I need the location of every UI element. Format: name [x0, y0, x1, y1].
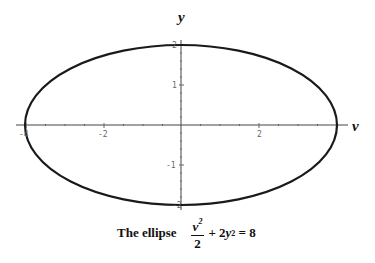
x-axis-label: v — [352, 118, 359, 134]
y-tick-m1: -1 — [166, 161, 176, 170]
caption-den: 2 — [194, 236, 201, 251]
caption-num-exp: 2 — [198, 217, 202, 226]
caption-text: The ellipse — [117, 225, 177, 241]
caption-equals: = 8 — [235, 225, 255, 241]
y-tick-p2: 2 — [172, 41, 177, 50]
x-tick-p2: 2 — [257, 130, 262, 139]
x-tick-m2: -2 — [98, 130, 108, 139]
y-tick-p1: 1 — [172, 81, 177, 90]
y-tick-m2: -2 — [172, 201, 182, 210]
x-tick-m4: -4 — [19, 130, 29, 139]
caption-fraction: v2 2 — [191, 215, 205, 251]
y-axis-label: y — [176, 9, 185, 25]
caption-plus: + 2 — [208, 225, 225, 241]
chart-caption: The ellipse v2 2 + 2y2 = 8 — [117, 212, 256, 254]
